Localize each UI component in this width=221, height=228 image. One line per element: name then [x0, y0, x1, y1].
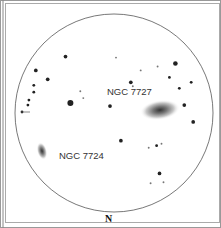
star: [46, 77, 50, 81]
label-ngc-7727: NGC 7727: [107, 86, 152, 97]
star: [32, 84, 35, 87]
arrow-star: [21, 111, 24, 114]
star: [148, 147, 150, 149]
star: [34, 69, 38, 73]
label-ngc-7724: NGC 7724: [59, 150, 104, 161]
north-label: N: [105, 213, 113, 224]
star: [64, 55, 68, 59]
star: [168, 76, 171, 79]
star: [190, 81, 193, 84]
star: [182, 103, 186, 107]
star: [157, 66, 159, 68]
star: [82, 97, 84, 99]
star: [155, 144, 158, 147]
star: [79, 90, 81, 92]
star: [32, 91, 35, 94]
star: [108, 104, 112, 108]
star: [161, 143, 163, 145]
star: [67, 100, 73, 106]
star: [119, 139, 123, 143]
star: [140, 69, 142, 71]
star: [163, 181, 165, 183]
star: [158, 172, 162, 176]
star: [28, 99, 31, 102]
finder-chart: NGC 7727 NGC 7724 N: [0, 0, 221, 228]
field-of-view-circle: [15, 14, 213, 212]
star: [115, 57, 117, 59]
star: [173, 61, 178, 66]
star: [27, 104, 30, 107]
star: [191, 120, 195, 124]
star: [150, 182, 152, 184]
star: [129, 80, 133, 84]
star: [178, 87, 181, 90]
